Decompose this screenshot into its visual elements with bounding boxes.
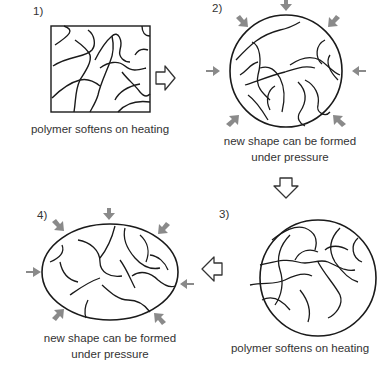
step2-circle <box>206 0 366 127</box>
step3-caption: polymer softens on heating <box>215 340 380 356</box>
flow-arrow-down-icon <box>274 178 298 198</box>
flow-arrow-left-icon <box>202 257 222 281</box>
step2-caption: new shape can be formed under pressure <box>215 133 365 165</box>
step4-number: 4) <box>37 209 47 221</box>
step3-circle <box>250 220 376 336</box>
step1-number: 1) <box>33 5 43 17</box>
step4-caption-line2: under pressure <box>30 346 190 362</box>
step3-number: 3) <box>219 208 229 220</box>
diagram-canvas <box>0 0 380 375</box>
pressure-arrows-step4 <box>26 208 194 325</box>
step2-number: 2) <box>212 2 222 14</box>
step4-ellipse <box>26 208 194 325</box>
step1-caption: polymer softens on heating <box>15 121 185 137</box>
step4-caption: new shape can be formed under pressure <box>30 330 190 362</box>
step1-square <box>51 26 150 112</box>
step2-caption-line1: new shape can be formed <box>215 133 365 149</box>
step2-caption-line2: under pressure <box>215 149 365 165</box>
flow-arrow-right-icon <box>156 66 175 90</box>
step4-caption-line1: new shape can be formed <box>30 330 190 346</box>
